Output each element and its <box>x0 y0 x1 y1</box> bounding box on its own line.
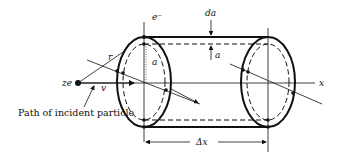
intersect-dot-2 <box>121 71 125 75</box>
intersect-dot-6 <box>291 91 295 95</box>
intersect-dot-5 <box>246 70 250 74</box>
intersect-dot-3 <box>164 88 168 92</box>
intersect-dot-10 <box>142 125 146 129</box>
intersect-dot-1 <box>115 69 119 73</box>
particle-dot <box>75 80 81 86</box>
label-v: v <box>101 83 106 93</box>
cylindrical-shell-diagram: e⁻ da a a r ze v x Δx Path of incident p… <box>0 0 342 158</box>
electron-dot-top-inner <box>142 42 146 46</box>
intersect-dot-9 <box>142 118 146 122</box>
label-x: x <box>319 78 324 88</box>
intersect-dot-4 <box>241 68 245 72</box>
label-a-inner: a <box>152 57 157 67</box>
label-electron: e⁻ <box>152 12 162 22</box>
label-ze: ze <box>61 78 72 88</box>
label-a-top: a <box>215 50 220 60</box>
intersect-dot-8 <box>266 125 270 129</box>
diagonal-left <box>87 60 200 104</box>
caption: Path of incident particle <box>18 107 135 118</box>
label-r: r <box>108 52 113 62</box>
label-da: da <box>205 8 216 18</box>
caption-pointer <box>84 86 94 107</box>
electron-dot-top <box>142 35 146 39</box>
label-delta-x: Δx <box>195 137 208 147</box>
intersect-dot-7 <box>266 118 270 122</box>
inner-arrow <box>171 89 198 103</box>
